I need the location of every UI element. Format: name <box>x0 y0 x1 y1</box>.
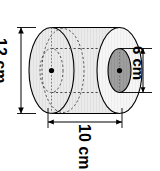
arrowhead-right <box>116 119 122 124</box>
arrowhead-down <box>141 87 146 92</box>
length-label: 10 cm <box>76 124 92 169</box>
arrowhead-left <box>48 119 54 124</box>
left-center-dot <box>49 68 54 73</box>
right-center-dot <box>117 68 122 73</box>
inner-diameter-label: 6 cm <box>131 46 146 80</box>
cylinder-diagram: 12 cm 6 cm 10 cm <box>0 0 160 171</box>
arrowhead-down <box>18 108 24 114</box>
outer-diameter-label: 12 cm <box>0 38 8 83</box>
arrowhead-up <box>18 28 24 34</box>
